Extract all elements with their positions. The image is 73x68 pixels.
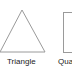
triangle-label: Triangle bbox=[7, 57, 36, 66]
square-shape bbox=[64, 13, 73, 53]
square-label: Quadrilateral bbox=[58, 57, 72, 66]
triangle-shape bbox=[0, 10, 45, 52]
